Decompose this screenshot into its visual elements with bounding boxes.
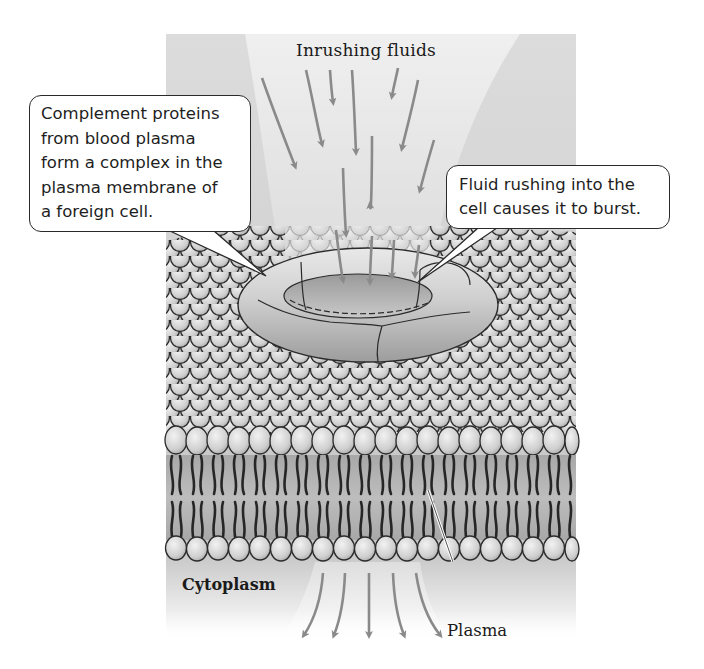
diagram-stage: Inrushing fluids Complement proteins fro… (0, 0, 704, 669)
callout-text-line: Fluid rushing into the (459, 173, 669, 197)
callout-complement-complex: Complement proteins from blood plasma fo… (29, 95, 251, 232)
callout-text-line: form a complex in the (41, 151, 250, 176)
membrane-label-line: Plasma (447, 618, 558, 643)
callout-text-line: Complement proteins (41, 102, 250, 127)
callout-text-line: plasma membrane of (41, 176, 250, 201)
plasma-membrane-label: Plasma membrane of foreign cell (447, 568, 558, 669)
cytoplasm-label: Cytoplasm (182, 575, 276, 594)
callout-text-line: cell causes it to burst. (459, 197, 669, 221)
complement-protein-ring (238, 248, 498, 362)
callout-fluid-burst: Fluid rushing into the cell causes it to… (446, 165, 670, 229)
callout-text-line: a foreign cell. (41, 200, 250, 225)
inrushing-fluids-label: Inrushing fluids (296, 40, 436, 60)
callout-text-line: from blood plasma (41, 127, 250, 152)
